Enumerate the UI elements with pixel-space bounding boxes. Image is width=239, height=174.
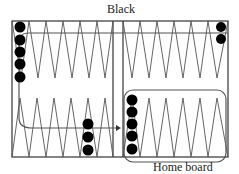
points-top-right (123, 21, 228, 78)
points-bottom-right (123, 98, 228, 157)
label-home-board: Home board (153, 160, 213, 174)
points-top-left (12, 21, 113, 78)
checkers-bottom-right (127, 95, 138, 155)
checkers-bottom-left (83, 119, 94, 156)
arrowhead-icon (116, 125, 121, 131)
checkers-top-left (15, 22, 26, 83)
backgammon-board (0, 0, 239, 174)
board-frame (12, 21, 228, 157)
